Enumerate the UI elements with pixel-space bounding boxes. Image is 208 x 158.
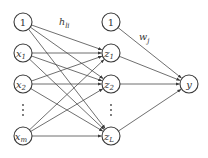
edge-in_bias-to-zL xyxy=(28,29,105,128)
neural-network-diagram: 1x1x2xm1z1z2zLy hliwj xyxy=(0,0,208,158)
weight-label-w: wj xyxy=(139,31,150,45)
node-x1: x1 xyxy=(14,44,32,62)
node-label: y xyxy=(185,79,192,90)
node-y: y xyxy=(180,75,198,93)
node-xm: xm xyxy=(14,127,32,145)
node-in_bias: 1 xyxy=(14,13,32,31)
node-label: 1 xyxy=(108,17,114,28)
node-z1: z1 xyxy=(102,44,120,62)
node-hid_bias: 1 xyxy=(102,13,120,31)
node-label: 1 xyxy=(20,17,26,28)
node-x2: x2 xyxy=(14,75,32,93)
vertical-ellipsis-hidden xyxy=(110,104,112,116)
weight-label-h: hli xyxy=(59,16,70,30)
node-zL: zL xyxy=(102,127,120,145)
edge-z1-to-y xyxy=(119,56,180,80)
vertical-ellipsis-input xyxy=(22,104,24,116)
edge-hid_bias-to-y xyxy=(118,28,182,78)
node-z2: z2 xyxy=(102,75,120,93)
edge-zL-to-y xyxy=(118,89,181,131)
